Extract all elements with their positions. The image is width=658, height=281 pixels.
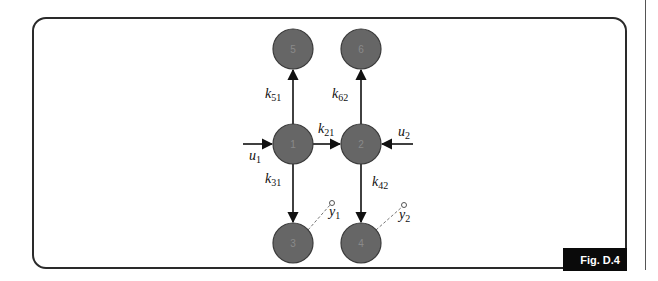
node-5: 5 [273, 29, 313, 69]
label-k31: k31 [265, 171, 281, 188]
node-2: 2 [341, 124, 381, 164]
compartment-diagram: 5 6 1 2 3 4 k51 k62 k21 k31 k42 u1 u2 y1… [0, 0, 658, 281]
node-1: 1 [273, 124, 313, 164]
node-6: 6 [341, 29, 381, 69]
label-u1: u1 [249, 148, 261, 165]
node-3: 3 [273, 223, 313, 263]
node-5-label: 5 [290, 44, 296, 55]
node-4-label: 4 [358, 238, 364, 249]
node-6-label: 6 [358, 44, 364, 55]
label-k42: k42 [372, 174, 388, 191]
label-k21: k21 [318, 121, 334, 138]
label-y2: y2 [397, 207, 410, 224]
label-k62: k62 [332, 86, 348, 103]
node-3-label: 3 [290, 238, 296, 249]
node-1-label: 1 [290, 139, 296, 150]
node-4: 4 [341, 223, 381, 263]
label-y1: y1 [327, 204, 340, 221]
label-k51: k51 [265, 86, 281, 103]
label-u2: u2 [398, 124, 410, 141]
figure-caption-tag: Fig. D.4 [563, 248, 627, 271]
node-2-label: 2 [358, 139, 364, 150]
output-y1-dash [308, 205, 330, 230]
